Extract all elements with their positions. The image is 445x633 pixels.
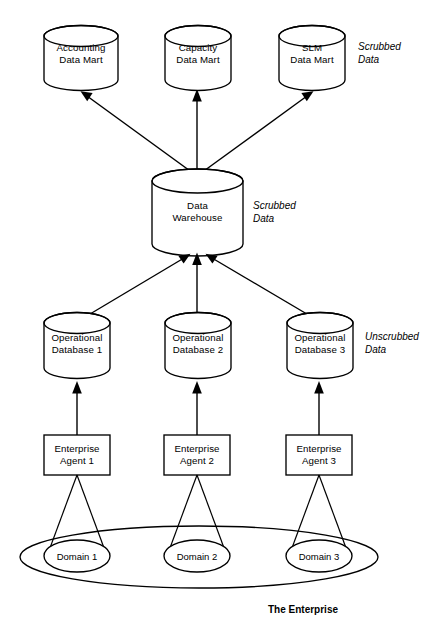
- annotation-operational-unscrubbed-data: Unscrubbed Data: [365, 331, 419, 356]
- arrowhead-db1-from-agent1: [72, 381, 82, 394]
- operational-database-shapes: [44, 313, 353, 379]
- annotation-operational-unscrubbed-data-line2: Data: [365, 344, 419, 357]
- cylinder-capacity-data-mart: [165, 26, 231, 91]
- arrowhead-slm-mart: [301, 91, 313, 101]
- annotation-warehouse-scrubbed-data-line2: Data: [253, 213, 296, 226]
- annotation-warehouse-scrubbed-data-line1: Scrubbed: [253, 200, 296, 213]
- annotation-marts-scrubbed-data-line2: Data: [358, 54, 401, 67]
- label-domain-1: Domain 1: [44, 551, 110, 562]
- annotation-operational-unscrubbed-data-line1: Unscrubbed: [365, 331, 419, 344]
- enterprise-data-warehouse-diagram: Accounting Data Mart Capacity Data Mart …: [0, 0, 445, 633]
- data-mart-shapes: [44, 26, 345, 91]
- box-enterprise-agent-3: [286, 435, 352, 475]
- box-enterprise-agent-1: [44, 435, 110, 475]
- arrowhead-db2-from-agent2: [192, 381, 202, 394]
- label-the-enterprise: The Enterprise: [268, 604, 338, 616]
- connector-warehouse-to-accounting-mart: [87, 96, 197, 176]
- enterprise-agent-shapes: [44, 435, 352, 475]
- data-warehouse-shape: [152, 169, 243, 256]
- connector-db3-to-warehouse: [212, 258, 317, 320]
- cylinder-operational-database-3: [287, 313, 353, 379]
- warehouse-to-data-mart-connectors: [81, 89, 314, 176]
- annotation-marts-scrubbed-data-line1: Scrubbed: [358, 41, 401, 54]
- arrowhead-db3-from-agent3: [314, 381, 324, 394]
- label-domain-2: Domain 2: [164, 551, 230, 562]
- operational-db-to-warehouse-connectors: [80, 253, 317, 323]
- connector-db1-to-warehouse: [80, 258, 184, 320]
- diagram-canvas: [0, 0, 445, 633]
- cylinder-accounting-data-mart: [44, 26, 118, 91]
- agent-to-operational-db-connectors: [72, 381, 324, 435]
- cylinder-operational-database-1: [44, 313, 110, 379]
- label-domain-3: Domain 3: [286, 551, 352, 562]
- connector-warehouse-to-slm-mart: [197, 96, 307, 176]
- cylinder-slm-data-mart: [279, 26, 345, 91]
- annotation-warehouse-scrubbed-data: Scrubbed Data: [253, 200, 296, 225]
- arrowhead-accounting-mart: [81, 91, 93, 101]
- cylinder-operational-database-2: [165, 313, 231, 379]
- annotation-marts-scrubbed-data: Scrubbed Data: [358, 41, 401, 66]
- cylinder-data-warehouse: [152, 169, 243, 256]
- box-enterprise-agent-2: [164, 435, 230, 475]
